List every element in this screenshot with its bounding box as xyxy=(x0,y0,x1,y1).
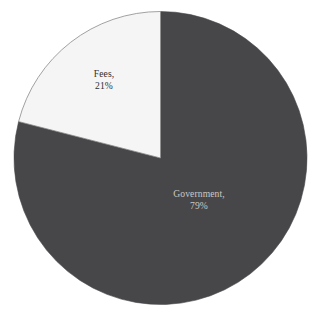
pie-chart: Government, 79% Fees, 21% xyxy=(0,0,320,319)
pie-label-government-name: Government, xyxy=(160,188,238,200)
pie-chart-canvas xyxy=(0,0,320,319)
pie-label-government-value: 79% xyxy=(160,200,238,212)
pie-label-fees-name: Fees, xyxy=(78,68,130,80)
pie-label-fees-value: 21% xyxy=(78,80,130,92)
pie-label-fees: Fees, 21% xyxy=(78,68,130,91)
pie-label-government: Government, 79% xyxy=(160,188,238,211)
pie-slices xyxy=(14,11,307,304)
